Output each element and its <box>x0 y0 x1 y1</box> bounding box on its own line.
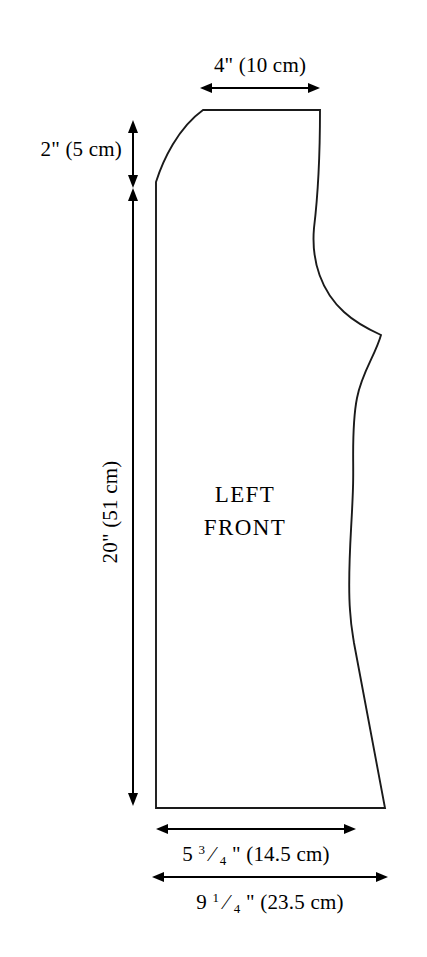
waist-inches-whole: 5 <box>182 842 193 866</box>
hem-fraction-denominator: 4 <box>234 901 241 916</box>
arrowhead-left-waist-width <box>156 824 168 834</box>
hem-fraction-slash: ⁄ <box>221 890 233 914</box>
waist-fraction-slash: ⁄ <box>207 842 219 866</box>
pattern-piece-outline <box>156 110 385 808</box>
pattern-diagram: 4" (10 cm) 2" (5 cm) 20" (51 cm) 5 3 ⁄ <box>0 0 427 957</box>
piece-label-line1: LEFT <box>215 482 276 507</box>
piece-label: LEFT FRONT <box>204 482 286 540</box>
waist-fraction-numerator: 3 <box>199 842 206 857</box>
arrowhead-top-neck-drop <box>128 120 138 133</box>
dimension-label-waist-width: 5 3 ⁄ 4 " (14.5 cm) <box>182 835 329 870</box>
waist-fraction-denominator: 4 <box>220 853 227 868</box>
hem-suffix: " (23.5 cm) <box>246 890 344 914</box>
arrowhead-left-shoulder-top <box>200 83 212 93</box>
dimension-label-center-front: 20" (51 cm) <box>98 461 122 564</box>
dimension-label-shoulder-top: 4" (10 cm) <box>214 53 306 77</box>
pattern-drawing: 4" (10 cm) 2" (5 cm) 20" (51 cm) 5 3 ⁄ <box>0 0 427 957</box>
dimension-neck-drop: 2" (5 cm) <box>40 120 138 188</box>
hem-inches-whole: 9 <box>196 890 207 914</box>
dimension-label-neck-drop: 2" (5 cm) <box>40 137 122 161</box>
arrowhead-right-hem-width <box>376 872 388 882</box>
arrowhead-top-center-front <box>128 188 138 201</box>
arrowhead-right-waist-width <box>344 824 356 834</box>
dimension-label-hem-width: 9 1 ⁄ 4 " (23.5 cm) <box>196 883 343 918</box>
arrowhead-bottom-neck-drop <box>128 175 138 188</box>
piece-label-line2: FRONT <box>204 515 286 540</box>
arrowhead-right-shoulder-top <box>308 83 320 93</box>
dimension-hem-width: 9 1 ⁄ 4 " (23.5 cm) <box>152 872 388 918</box>
waist-suffix: " (14.5 cm) <box>232 842 330 866</box>
arrowhead-bottom-center-front <box>128 793 138 806</box>
arrowhead-left-hem-width <box>152 872 164 882</box>
dimension-shoulder-top: 4" (10 cm) <box>200 53 320 93</box>
dimension-waist-width: 5 3 ⁄ 4 " (14.5 cm) <box>156 824 356 870</box>
hem-fraction-numerator: 1 <box>213 890 220 905</box>
dimension-center-front-length: 20" (51 cm) <box>98 188 138 806</box>
